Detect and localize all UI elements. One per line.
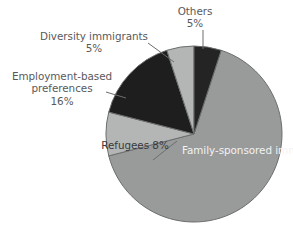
slice-label-refugees-value: 8% [152,139,168,151]
slice-label-refugees: Refugees 8% [98,139,172,151]
slice-label-family-line1: Family-sponsored [182,144,272,156]
slice-label-employment-based: Employment-based preferences 16% [2,70,122,107]
slice-label-others-value: 5% [152,17,238,29]
slice-label-employment-value: 16% [2,95,122,107]
slice-label-diversity-value: 5% [34,42,154,54]
slice-label-others: Others 5% [152,5,238,30]
slice-label-family-line2: immigrants [275,144,293,156]
slice-label-employment-line2: preferences [2,82,122,94]
slice-label-diversity: Diversity immigrants 5% [34,30,154,55]
slice-label-diversity-text: Diversity immigrants [40,30,148,42]
slice-label-employment-line1: Employment-based [12,70,112,82]
slice-label-others-text: Others [178,5,213,17]
slice-label-family-sponsored: Family-sponsored immigrants 66% [182,144,286,156]
pie-chart: Others 5% Diversity immigrants 5% Employ… [0,0,293,240]
slice-label-refugees-text: Refugees [101,139,149,151]
